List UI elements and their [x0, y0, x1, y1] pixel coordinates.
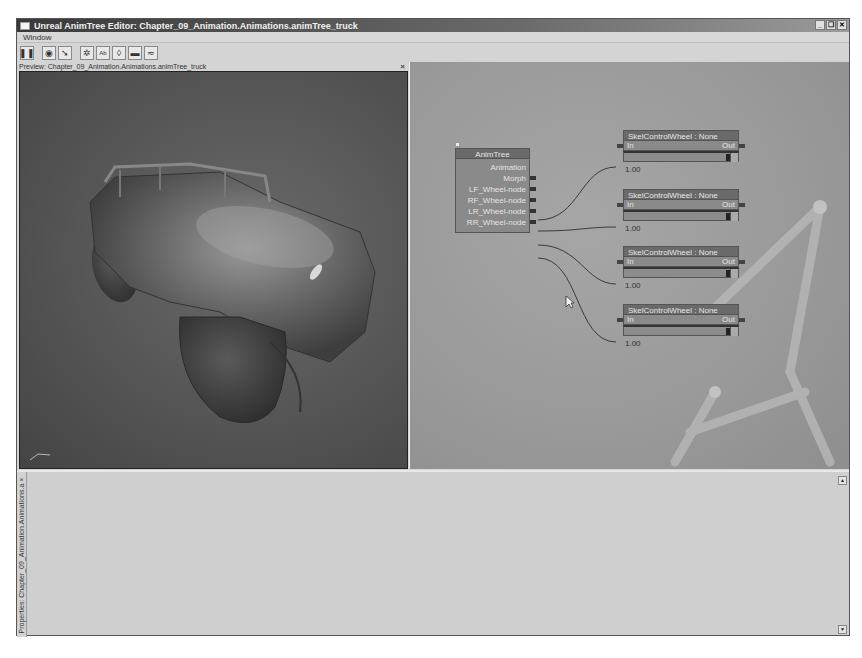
show-bone-names-button[interactable]: Ab [96, 46, 110, 60]
output-port[interactable] [739, 144, 745, 148]
strength-value: 1.00 [623, 281, 739, 290]
pause-icon: ❚❚ [19, 48, 35, 58]
close-button[interactable]: ✕ [837, 20, 847, 30]
menu-bar: Window [17, 32, 849, 43]
output-rr-wheel[interactable]: RR_Wheel-node [456, 217, 529, 228]
input-label: In [627, 257, 634, 267]
node-io-row: In Out [623, 200, 739, 210]
skel-control-wheel-node[interactable]: SkelControlWheel : None In Out 1.00 [623, 246, 739, 290]
scroll-track[interactable] [838, 485, 847, 625]
input-port[interactable] [617, 260, 623, 264]
strength-slider[interactable] [623, 325, 739, 336]
strength-value: 1.00 [623, 165, 739, 174]
node-io-row: In Out [623, 315, 739, 325]
node-title: SkelControlWheel : None [623, 189, 739, 200]
scroll-up-button[interactable]: ▲ [838, 476, 847, 485]
curve-icon: ≂ [147, 48, 155, 58]
pause-button[interactable]: ❚❚ [20, 46, 34, 60]
output-label: Out [722, 141, 735, 151]
preview-close-icon[interactable]: × [400, 62, 405, 71]
preview-pane: Preview: Chapter_09_Animation.Animations… [17, 62, 408, 469]
node-outputs: Animation Morph LF_Wheel-node RF_Wheel-n… [455, 159, 530, 233]
animtree-root-node[interactable]: AnimTree Animation Morph LF_Wheel-node R… [455, 148, 530, 233]
strength-value: 1.00 [623, 339, 739, 348]
node-io-row: In Out [623, 141, 739, 151]
restore-button[interactable]: ❐ [826, 20, 836, 30]
properties-tab-label: Properties: Chapter_09_Animation.Animati… [18, 474, 25, 634]
toolbar: ❚❚ ◉ ➘ ✲ Ab ◊ ▬ ≂ [17, 44, 849, 62]
menu-window[interactable]: Window [20, 33, 54, 42]
title-bar[interactable]: Unreal AnimTree Editor: Chapter_09_Anima… [17, 19, 849, 32]
preview-viewport[interactable] [19, 71, 408, 469]
properties-pane: Properties: Chapter_09_Animation.Animati… [17, 470, 849, 635]
output-port[interactable] [739, 203, 745, 207]
strength-slider[interactable] [623, 210, 739, 221]
output-port[interactable] [530, 220, 536, 224]
output-port[interactable] [739, 260, 745, 264]
app-icon [20, 22, 30, 30]
output-port[interactable] [739, 318, 745, 322]
node-io-row: In Out [623, 257, 739, 267]
capsule-icon: ◊ [117, 48, 121, 58]
strength-value: 1.00 [623, 224, 739, 233]
anim-tree-editor-window: Unreal AnimTree Editor: Chapter_09_Anima… [16, 18, 850, 636]
output-rf-wheel[interactable]: RF_Wheel-node [456, 195, 529, 206]
input-label: In [627, 141, 634, 151]
show-floor-button[interactable]: ▬ [128, 46, 142, 60]
node-title: SkelControlWheel : None [623, 246, 739, 257]
arrow-icon: ➘ [61, 48, 69, 58]
input-label: In [627, 200, 634, 210]
show-mesh-button[interactable]: ◉ [42, 46, 56, 60]
show-skeleton-button[interactable]: ✲ [80, 46, 94, 60]
skel-control-wheel-node[interactable]: SkelControlWheel : None In Out 1.00 [623, 304, 739, 348]
output-port[interactable] [530, 176, 536, 180]
show-bounds-button[interactable]: ◊ [112, 46, 126, 60]
minimize-button[interactable]: _ [815, 20, 825, 30]
strength-slider[interactable] [623, 267, 739, 278]
output-port[interactable] [530, 209, 536, 213]
strength-slider[interactable] [623, 151, 739, 162]
anim-graph-canvas[interactable]: AnimTree Animation Morph LF_Wheel-node R… [409, 62, 849, 469]
truck-model-render [20, 72, 408, 469]
properties-tab[interactable]: Properties: Chapter_09_Animation.Animati… [17, 472, 27, 637]
input-port[interactable] [617, 318, 623, 322]
eye-icon: ◉ [45, 48, 53, 58]
skel-control-wheel-node[interactable]: SkelControlWheel : None In Out 1.00 [623, 189, 739, 233]
floor-bar-icon: ▬ [131, 48, 140, 58]
window-controls: _ ❐ ✕ [815, 20, 847, 30]
node-corner-handle[interactable] [455, 142, 460, 147]
show-normals-button[interactable]: ➘ [58, 46, 72, 60]
skel-control-wheel-node[interactable]: SkelControlWheel : None In Out 1.00 [623, 130, 739, 174]
preview-title: Preview: Chapter_09_Animation.Animations… [19, 63, 206, 70]
output-label: Out [722, 315, 735, 325]
scroll-down-button[interactable]: ▼ [838, 625, 847, 634]
output-label: Out [722, 257, 735, 267]
node-title: AnimTree [455, 148, 530, 159]
mouse-cursor-icon [565, 295, 575, 309]
input-port[interactable] [617, 144, 623, 148]
output-morph[interactable]: Morph [456, 173, 529, 184]
input-label: In [627, 315, 634, 325]
output-label: Out [722, 200, 735, 210]
output-lf-wheel[interactable]: LF_Wheel-node [456, 184, 529, 195]
node-title: SkelControlWheel : None [623, 304, 739, 315]
input-port[interactable] [617, 203, 623, 207]
node-title: SkelControlWheel : None [623, 130, 739, 141]
preview-header: Preview: Chapter_09_Animation.Animations… [17, 62, 408, 71]
text-ab-icon: Ab [99, 50, 106, 56]
output-lr-wheel[interactable]: LR_Wheel-node [456, 206, 529, 217]
figure-icon: ✲ [83, 48, 91, 58]
window-title: Unreal AnimTree Editor: Chapter_09_Anima… [34, 21, 358, 31]
output-port[interactable] [530, 187, 536, 191]
properties-scrollbar[interactable]: ▲ ▼ [838, 476, 847, 634]
curve-options-button[interactable]: ≂ [144, 46, 158, 60]
output-port[interactable] [530, 198, 536, 202]
output-animation[interactable]: Animation [456, 162, 529, 173]
